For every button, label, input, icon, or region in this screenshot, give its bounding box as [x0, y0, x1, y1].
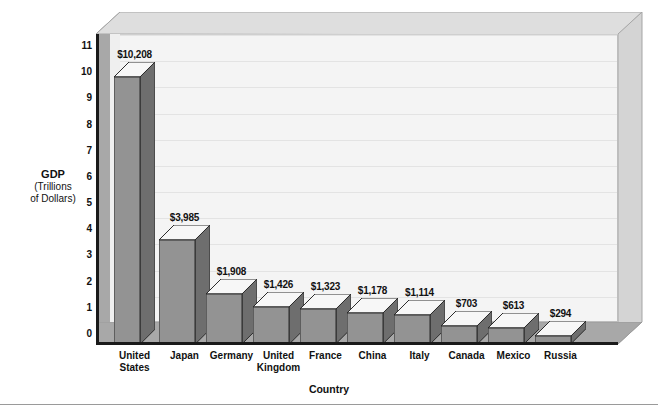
bottom-divider: [0, 404, 658, 405]
bar: [394, 300, 445, 344]
bar: [535, 321, 586, 344]
bar: [347, 298, 398, 344]
bar-value-label: $1,323: [311, 281, 340, 292]
y-tick-label: 6: [86, 172, 92, 182]
bar: [253, 292, 304, 344]
bar-value-label: $1,908: [217, 266, 246, 277]
bar-value-label: $3,985: [170, 212, 199, 223]
chart-plot-3d-frame: $10,208$3,985$1,908$1,426$1,323$1,178$1,…: [96, 12, 642, 344]
bar-value-label: $1,114: [405, 287, 434, 298]
gdp-bar-chart-figure: GDP (Trillions of Dollars) 1110987654321…: [0, 0, 658, 415]
x-tick-label: Russia: [521, 350, 601, 362]
y-tick-label: 10: [81, 67, 92, 77]
y-tick-label: 2: [86, 277, 92, 287]
bar-value-label: $10,208: [117, 49, 152, 60]
bar: [300, 294, 351, 344]
y-tick-label: 3: [86, 250, 92, 260]
x-axis-title: Country: [0, 383, 658, 395]
y-tick-label: 8: [86, 120, 92, 130]
bar: [114, 62, 155, 344]
y-tick-label: 9: [86, 93, 92, 103]
bar: [206, 279, 257, 344]
y-tick-label: 7: [86, 146, 92, 156]
y-tick-label: 1: [86, 303, 92, 313]
bar: [488, 313, 539, 344]
frame-top-face: [96, 12, 642, 34]
bar-value-label: $1,178: [358, 285, 387, 296]
x-axis-tick-labels: United StatesJapanGermanyUnited KingdomF…: [96, 350, 642, 380]
y-tick-label: 5: [86, 198, 92, 208]
bar-value-label: $1,426: [264, 279, 293, 290]
bar-value-label: $294: [550, 308, 571, 319]
bar-value-label: $613: [503, 300, 524, 311]
bar: [441, 311, 492, 344]
bar: [159, 225, 210, 344]
y-axis-line: [96, 34, 99, 345]
y-tick-label: 11: [81, 41, 92, 51]
bars-layer: $10,208$3,985$1,908$1,426$1,323$1,178$1,…: [96, 34, 642, 345]
x-axis-line: [96, 342, 618, 345]
y-tick-label: 0: [86, 329, 92, 339]
y-axis-tick-labels: 11109876543210: [62, 12, 92, 344]
y-tick-label: 4: [86, 224, 92, 234]
bar-value-label: $703: [456, 298, 477, 309]
